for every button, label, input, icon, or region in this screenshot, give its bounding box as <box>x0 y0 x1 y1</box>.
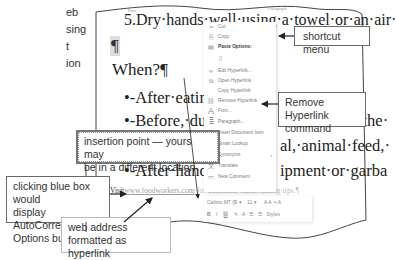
doc-fragment: ipment·or·garba <box>280 161 387 181</box>
menu-item-font[interactable]: AFont... <box>204 106 276 116</box>
menu-item-open-hyperlink[interactable]: ⧉Open Hyperlink <box>204 76 276 86</box>
bullet-item: •-After·eatin <box>124 88 208 108</box>
menu-item-remove-hyperlink[interactable]: ⛓Remove Hyperlink <box>204 96 276 106</box>
mini-toolbar: Calisto MT (B ▾ 11 ▾ A A ✑ A B I U ✎ · A… <box>204 196 312 222</box>
format-buttons[interactable]: ✎ · A · ☰ · ☰ · Styles <box>234 211 280 217</box>
paragraph-mark: ¶ <box>110 36 120 56</box>
menu-item-copy-hyperlink[interactable]: Copy Hyperlink <box>204 86 276 96</box>
remove-link-icon: ⛓ <box>207 96 215 106</box>
clipboard-icon: ▯ <box>216 53 224 63</box>
callout-remove-hyperlink: Remove Hyperlink command <box>278 92 366 127</box>
bullet-item: •-Before,·du <box>124 111 206 131</box>
callout-text: formatted as hyperlink <box>68 234 164 260</box>
paragraph-icon: ≣ <box>207 117 215 127</box>
menu-item-copy[interactable]: ⎘Copy <box>204 32 276 42</box>
callout-text: Remove Hyperlink <box>285 96 359 122</box>
callout-insertion-point: insertion point — yours may be in a diff… <box>76 130 220 164</box>
heading-when[interactable]: When?¶ <box>112 60 168 80</box>
hyperlink-url[interactable]: www.foodworkers.com <box>124 186 194 195</box>
scissors-icon: ✂ <box>207 22 215 32</box>
callout-text: command <box>285 122 359 135</box>
callout-web-address: web address formatted as hyperlink <box>62 218 170 252</box>
menu-item-edit-hyperlink[interactable]: ∞Edit Hyperlink... <box>204 66 276 76</box>
font-size-box[interactable]: 11 <box>247 199 252 205</box>
font-format-buttons[interactable]: A A ✑ A <box>264 199 281 205</box>
callout-text: clicking blue box would <box>13 180 103 206</box>
menu-item-cut[interactable]: ✂Cut <box>204 22 276 32</box>
font-icon: A <box>207 106 215 116</box>
context-menu: ✂Cut ⎘Copy ▤Paste Options: ▯ ∞Edit Hyper… <box>204 22 276 192</box>
visit-prefix: Visit <box>110 186 124 195</box>
paste-icon: ▤ <box>207 42 215 52</box>
font-name-box[interactable]: Calisto MT (B <box>207 199 237 205</box>
menu-item-new-comment[interactable]: ▭New Comment <box>204 172 276 182</box>
callout-shortcut-menu: shortcut menu <box>294 26 370 46</box>
callout-text: web address <box>68 221 164 234</box>
callout-text: be in a different location <box>84 161 212 174</box>
callout-text: insertion point — yours may <box>84 135 212 161</box>
menu-item-paste-options: ▤Paste Options: <box>204 42 276 52</box>
doc-fragment: al,·animal·feed,· <box>280 136 390 156</box>
copy-icon: ⎘ <box>207 32 215 42</box>
submenu-arrow-icon: › <box>270 150 272 160</box>
menu-item-paragraph[interactable]: ≣Paragraph... <box>204 117 276 127</box>
edit-link-icon: ∞ <box>207 66 215 76</box>
underline-button[interactable]: U <box>223 211 229 217</box>
open-link-icon: ⧉ <box>207 76 215 86</box>
italic-button[interactable]: I <box>216 211 217 217</box>
callout-autocorrect: clicking blue box would display AutoCorr… <box>6 176 110 223</box>
paste-keep-text-button[interactable]: ▯ <box>216 53 228 63</box>
bold-button[interactable]: B <box>207 211 211 217</box>
